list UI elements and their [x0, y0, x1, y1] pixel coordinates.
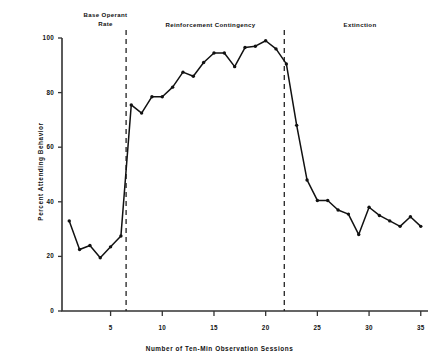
y-axis-tick-label: 0 [28, 307, 54, 314]
axis-lines [58, 38, 428, 316]
x-axis-tick-label: 5 [98, 324, 124, 331]
y-axis-tick-label: 80 [28, 89, 54, 96]
x-axis-title: Number of Ten-Min Observation Sessions [0, 345, 439, 352]
phase-divider-lines [126, 30, 284, 311]
y-axis-tick-label: 20 [28, 252, 54, 259]
y-axis-tick-label: 40 [28, 198, 54, 205]
phase-label-extinction: Extinction [305, 21, 415, 30]
x-axis-tick-label: 30 [356, 324, 382, 331]
x-axis-tick-label: 25 [304, 324, 330, 331]
line-chart-plot [0, 0, 439, 364]
x-axis-tick-label: 20 [253, 324, 279, 331]
phase-label-reinforcement-contingency: Reinforcement Contingency [133, 21, 288, 30]
y-axis-tick-label: 100 [28, 34, 54, 41]
y-axis-tick-label: 60 [28, 143, 54, 150]
x-axis-tick-label: 15 [201, 324, 227, 331]
x-axis-tick-label: 35 [408, 324, 434, 331]
x-axis-tick-label: 10 [149, 324, 175, 331]
data-series-line [69, 41, 421, 258]
data-point-markers [68, 39, 423, 259]
figure-container: Base Operant Rate Reinforcement Continge… [0, 0, 439, 364]
